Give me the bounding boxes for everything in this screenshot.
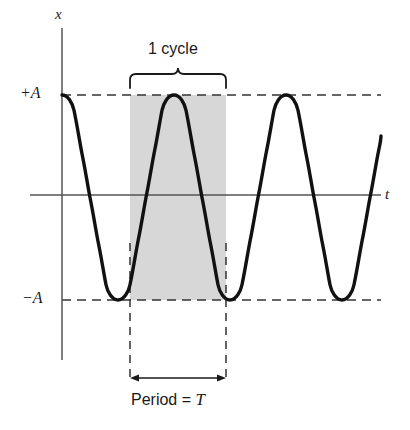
plot-canvas — [0, 0, 410, 430]
period-label-text: Period = — [131, 391, 195, 408]
oscillation-period-figure: x t +A −A 1 cycle Period = T — [0, 0, 410, 430]
one-cycle-brace — [130, 68, 226, 88]
one-cycle-label: 1 cycle — [148, 40, 198, 58]
y-axis-label: x — [55, 6, 62, 23]
positive-amplitude-label: +A — [20, 84, 41, 102]
x-axis-label: t — [385, 186, 389, 203]
period-symbol: T — [195, 390, 204, 409]
negative-amplitude-label: −A — [22, 289, 43, 307]
period-arrow — [130, 375, 226, 382]
period-label: Period = T — [131, 390, 205, 410]
